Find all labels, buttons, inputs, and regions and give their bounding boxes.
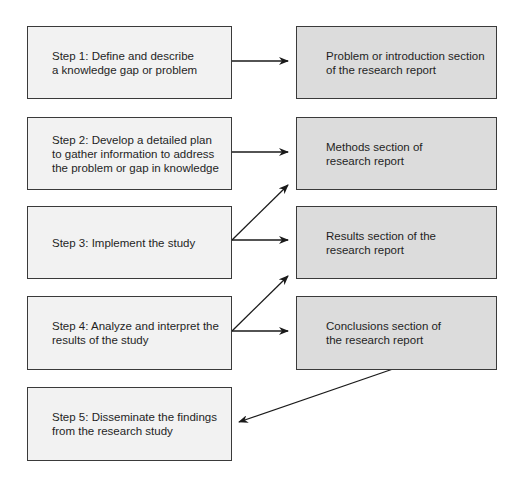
step-2-box: Step 2: Develop a detailed plan to gathe… (27, 117, 232, 190)
results-section-box: Results section of the research report (296, 206, 497, 279)
methods-section-box: Methods section of research report (296, 117, 497, 190)
arrow-conclusions-to-step5 (239, 369, 393, 422)
introduction-section-label: Problem or introduction section of the r… (297, 49, 485, 77)
step-2-label: Step 2: Develop a detailed plan to gathe… (28, 133, 219, 175)
step-4-box: Step 4: Analyze and interpret the result… (27, 296, 232, 370)
step-4-label: Step 4: Analyze and interpret the result… (28, 319, 219, 347)
step-1-box: Step 1: Define and describe a knowledge … (27, 26, 232, 99)
step-3-box: Step 3: Implement the study (27, 206, 232, 279)
arrow-step4-to-results (232, 276, 288, 331)
step-3-label: Step 3: Implement the study (28, 236, 195, 250)
step-1-label: Step 1: Define and describe a knowledge … (28, 49, 197, 77)
step-5-label: Step 5: Disseminate the findings from th… (28, 410, 217, 438)
step-5-box: Step 5: Disseminate the findings from th… (27, 387, 232, 461)
arrow-step3-to-methods (232, 185, 288, 240)
conclusions-section-box: Conclusions section of the research repo… (296, 296, 497, 370)
results-section-label: Results section of the research report (297, 229, 436, 257)
methods-section-label: Methods section of research report (297, 140, 423, 168)
conclusions-section-label: Conclusions section of the research repo… (297, 319, 441, 347)
introduction-section-box: Problem or introduction section of the r… (296, 26, 497, 99)
